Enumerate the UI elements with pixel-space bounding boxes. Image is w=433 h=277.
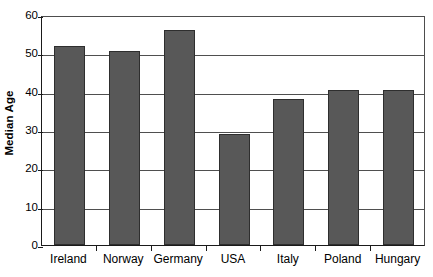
bars-layer	[42, 17, 424, 245]
y-axis-tick-label: 20	[18, 164, 38, 176]
y-axis-tick-mark	[38, 132, 43, 133]
x-axis-tick-mark	[206, 246, 207, 251]
x-axis-tick-label: Italy	[277, 253, 299, 266]
bar	[328, 90, 359, 245]
x-axis-tick-label: Hungary	[375, 253, 420, 266]
y-axis-tick-label: 50	[18, 49, 38, 61]
x-axis-tick-label: USA	[221, 253, 246, 266]
bar	[383, 90, 414, 245]
x-axis-tick-mark	[260, 246, 261, 251]
plot-area	[41, 16, 425, 246]
y-axis-tick-mark	[38, 170, 43, 171]
y-axis-tick-labels: 0102030405060	[18, 16, 38, 246]
bar	[54, 46, 85, 245]
x-axis-tick-label: Germany	[153, 253, 202, 266]
y-axis-title: Median Age	[0, 0, 18, 246]
x-axis-tick-mark	[315, 246, 316, 251]
x-axis-tick-label: Norway	[103, 253, 144, 266]
y-axis-tick-mark	[38, 17, 43, 18]
bar	[109, 51, 140, 245]
y-axis-tick-mark	[38, 55, 43, 56]
x-axis-tick-mark	[96, 246, 97, 251]
bar	[219, 134, 250, 245]
bar-chart: Median Age 0102030405060 IrelandNorwayGe…	[0, 0, 433, 277]
x-axis-tick-label: Poland	[324, 253, 361, 266]
x-axis-tick-mark	[370, 246, 371, 251]
y-axis-tick-mark	[38, 209, 43, 210]
y-axis-tick-label: 60	[18, 10, 38, 22]
y-axis-tick-mark	[38, 247, 43, 248]
y-axis-tick-label: 40	[18, 87, 38, 99]
x-axis-tick-label: Ireland	[50, 253, 87, 266]
y-axis-tick-mark	[38, 94, 43, 95]
y-axis-title-label: Median Age	[3, 90, 15, 155]
y-axis-tick-label: 10	[18, 202, 38, 214]
x-axis-tick-mark	[151, 246, 152, 251]
bar	[273, 99, 304, 245]
y-axis-tick-label: 30	[18, 125, 38, 137]
y-axis-tick-label: 0	[18, 240, 38, 252]
bar	[164, 30, 195, 245]
